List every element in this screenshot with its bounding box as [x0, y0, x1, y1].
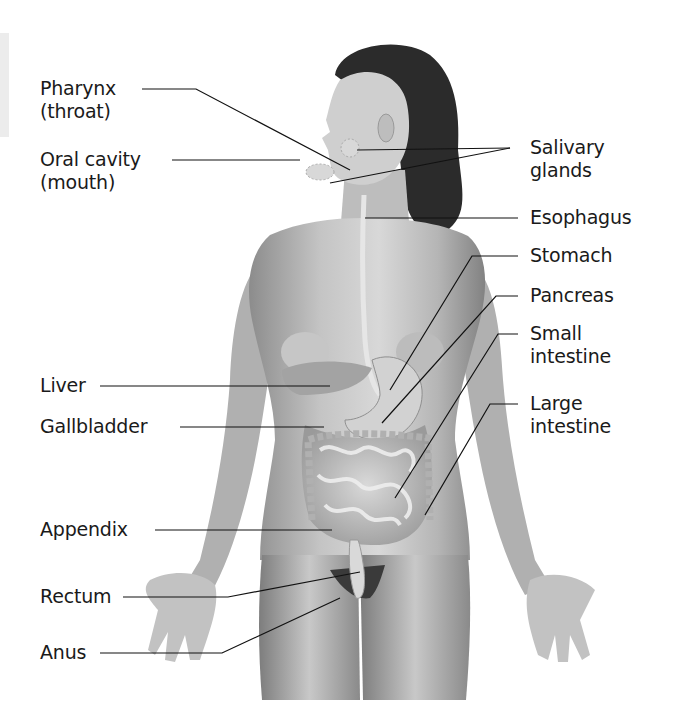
digestive-system-diagram: Pharynx (throat) Oral cavity (mouth) Liv…	[0, 0, 681, 728]
label-esophagus: Esophagus	[530, 206, 631, 229]
label-rectum: Rectum	[40, 585, 111, 608]
label-pharynx: Pharynx (throat)	[40, 77, 116, 123]
label-gallbladder: Gallbladder	[40, 415, 147, 438]
label-salivary-glands: Salivary glands	[530, 136, 605, 182]
label-large-intestine: Large intestine	[530, 392, 611, 438]
right-hand	[527, 575, 595, 662]
label-liver: Liver	[40, 374, 86, 397]
left-hand	[146, 573, 217, 662]
label-appendix: Appendix	[40, 518, 128, 541]
label-small-intestine: Small intestine	[530, 322, 611, 368]
label-oral-cavity: Oral cavity (mouth)	[40, 148, 141, 194]
label-stomach: Stomach	[530, 244, 612, 267]
label-pancreas: Pancreas	[530, 284, 614, 307]
ear	[378, 114, 394, 142]
head	[322, 72, 409, 185]
label-anus: Anus	[40, 641, 86, 664]
intestines	[302, 425, 432, 545]
